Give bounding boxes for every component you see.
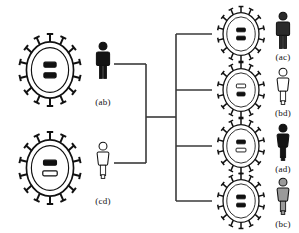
cell-spike: [255, 103, 259, 107]
cell-spike-cap: [249, 114, 253, 116]
figure-head: [279, 124, 287, 132]
cell-spike-cap: [60, 134, 66, 137]
chromosome-band: [236, 84, 245, 88]
female-figure-bd: [272, 66, 294, 112]
cell-spike: [26, 146, 32, 151]
cell-spike: [68, 186, 74, 191]
spiked-cell-bd-wrap: [212, 61, 270, 119]
cell-spike: [255, 184, 259, 188]
chromosome-band: [236, 148, 246, 152]
figure-leg: [284, 35, 287, 48]
female-figure-ad: [272, 122, 294, 168]
spiked-cell-ac: [212, 5, 270, 63]
figure-torso: [277, 188, 289, 201]
cell-membrane: [223, 125, 259, 168]
cell-spike: [60, 193, 63, 200]
figure-legs: [100, 165, 105, 175]
cell-spike-cap: [34, 134, 40, 137]
cell-spike: [231, 53, 233, 58]
cell-spike: [223, 47, 227, 51]
cell-spike-cap: [60, 36, 66, 39]
female-figure-cd: [92, 140, 114, 186]
chromosome-band: [43, 171, 57, 176]
spiked-cell-ad-wrap: [212, 117, 270, 175]
cell-spike-cap: [229, 64, 233, 66]
cell-spike: [68, 146, 74, 151]
female-figure-ad-wrap: [272, 122, 294, 168]
chromosome-band: [237, 36, 246, 40]
cell-spike: [231, 165, 233, 170]
cell-spike: [68, 48, 74, 53]
cell-spike-cap: [229, 114, 233, 116]
chromosome-band: [237, 195, 246, 199]
cell-spike-cap: [34, 199, 40, 202]
cell-spike-cap: [229, 8, 233, 10]
figure-legs: [280, 91, 285, 101]
figure-legs: [280, 201, 285, 211]
cell-spike: [20, 62, 27, 64]
cell-spike-cap: [218, 38, 219, 43]
male-figure-ac: [272, 10, 294, 56]
cell-spike: [249, 9, 251, 14]
figure-feet: [281, 211, 285, 215]
cell-spike: [223, 73, 227, 77]
cell-spike: [231, 121, 233, 126]
cell-spike-cap: [218, 138, 219, 143]
cell-spike-cap: [263, 150, 264, 155]
cell-spike: [218, 195, 223, 196]
male-figure-ac-wrap: [272, 10, 294, 56]
chromosome-band: [44, 160, 57, 165]
chromosome-band: [237, 92, 245, 96]
cell-spike-cap: [218, 150, 219, 155]
cell-spike: [255, 47, 259, 51]
female-figure-cd-wrap: [92, 140, 114, 186]
cell-spike: [223, 17, 227, 21]
spiked-cell-ad: [212, 117, 270, 175]
cell-spike: [73, 174, 80, 176]
cell-spike: [73, 76, 80, 78]
spiked-cell-cd: [12, 130, 88, 206]
cell-spike: [223, 214, 227, 218]
figure-leg: [104, 65, 107, 78]
spiked-cell-bc: [212, 172, 270, 230]
cell-spike-cap: [249, 8, 253, 10]
cell-spike-cap: [79, 173, 80, 179]
cell-spike: [223, 159, 227, 163]
cell-spike-cap: [218, 205, 219, 210]
cell-spike-cap: [263, 38, 264, 43]
cell-spike: [26, 88, 32, 93]
female-figure-bd-wrap: [272, 66, 294, 112]
figure-torso: [277, 134, 289, 147]
cell-spike-cap: [249, 225, 253, 227]
cell-membrane: [223, 13, 259, 56]
figure-feet: [101, 175, 105, 179]
genotype-label-ab: (ab): [83, 97, 123, 107]
cell-spike: [223, 103, 227, 107]
chromosome-band: [237, 28, 246, 32]
cell-spike: [20, 76, 27, 78]
cell-spike: [60, 136, 63, 143]
cell-membrane: [223, 69, 259, 112]
cell-spike-cap: [60, 101, 66, 104]
cell-spike: [259, 95, 264, 96]
cell-spike: [73, 62, 80, 64]
cell-spike: [255, 214, 259, 218]
cell-spike-cap: [19, 173, 20, 179]
cell-spike: [231, 220, 233, 225]
cell-spike: [259, 206, 264, 207]
cell-spike: [231, 109, 233, 114]
cell-spike: [231, 9, 233, 14]
cell-spike: [259, 84, 264, 85]
cell-spike-cap: [79, 75, 80, 81]
cell-spike-cap: [218, 82, 219, 87]
cell-membrane: [223, 180, 259, 223]
spiked-cell-ab: [12, 32, 88, 108]
cell-spike: [37, 38, 40, 45]
cell-spike-cap: [79, 157, 80, 163]
chromosome-band: [44, 73, 56, 78]
cell-spike: [37, 95, 40, 102]
cell-spike: [249, 165, 251, 170]
cell-spike: [218, 84, 223, 85]
cell-spike: [249, 121, 251, 126]
cell-spike: [218, 95, 223, 96]
